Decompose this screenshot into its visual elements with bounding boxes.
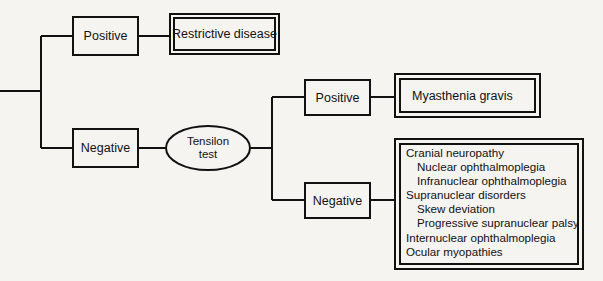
node-myasthenia-gravis-outer	[395, 74, 540, 117]
node-negative-top	[73, 129, 138, 167]
flowchart-diagram: Positive Restrictive disease Negative Te…	[0, 0, 603, 281]
differential-list-item: Nuclear ophthalmoplegia	[406, 160, 582, 174]
node-negative-branch	[305, 183, 370, 218]
differential-list-item: Internuclear ophthalmoplegia	[406, 231, 582, 245]
differential-list-item: Progressive supranuclear palsy	[406, 216, 582, 230]
differential-list-item: Skew deviation	[406, 202, 582, 216]
node-restrictive-disease-outer	[170, 14, 279, 54]
differential-list-items: Cranial neuropathyNuclear ophthalmoplegi…	[406, 146, 582, 259]
differential-list-item: Infranuclear ophthalmoplegia	[406, 174, 582, 188]
differential-list-item: Ocular myopathies	[406, 245, 582, 259]
differential-list-item: Supranuclear disorders	[406, 188, 582, 202]
node-positive-branch	[305, 80, 370, 115]
node-positive-top	[73, 17, 138, 55]
differential-list-item: Cranial neuropathy	[406, 146, 582, 160]
node-myasthenia-gravis-inner	[400, 79, 535, 112]
node-restrictive-disease-inner	[174, 18, 275, 50]
node-tensilon-test	[166, 126, 250, 170]
